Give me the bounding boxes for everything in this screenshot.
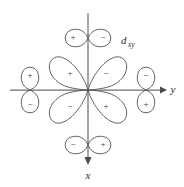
sign-bottom-right: + xyxy=(100,139,105,149)
orbital-label-subscript: xy xyxy=(127,40,135,49)
bottom-orbital-right-lobe xyxy=(88,136,111,153)
y-axis-arrowhead xyxy=(160,87,167,94)
top-orbital-right-lobe xyxy=(88,29,111,46)
sign-center-upper-left: + xyxy=(67,68,72,78)
sign-bottom-left: − xyxy=(70,139,75,149)
sign-center-lower-left: − xyxy=(67,101,72,111)
orbital-diagram: + − − + + − − + + − − + y x d xy xyxy=(0,0,184,187)
sign-right-bottom: + xyxy=(143,99,148,109)
sign-top-left: + xyxy=(70,32,75,42)
orbital-diagram-canvas: + − − + + − − + + − − + y x d xy xyxy=(0,0,184,187)
y-axis-label: y xyxy=(170,83,176,95)
bottom-orbital-left-lobe xyxy=(65,136,88,153)
sign-top-right: − xyxy=(100,32,105,42)
orbital-label-main: d xyxy=(121,34,127,46)
orbital-label: d xy xyxy=(121,34,135,49)
sign-right-top: − xyxy=(143,70,148,80)
x-axis-label: x xyxy=(85,169,91,181)
top-orbital-left-lobe xyxy=(65,29,88,46)
sign-left-bottom: − xyxy=(27,99,32,109)
sign-center-lower-right: + xyxy=(103,101,108,111)
sign-left-top: + xyxy=(27,70,32,80)
x-axis-arrowhead xyxy=(85,157,92,165)
sign-center-upper-right: − xyxy=(103,68,108,78)
